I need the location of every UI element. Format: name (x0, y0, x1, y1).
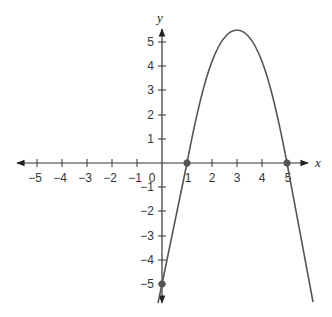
x-tick-labels: −5 −4 −3 −2 −1 1 2 3 4 5 (28, 171, 292, 185)
y-tick-label: 3 (147, 83, 154, 97)
y-tick-label: 4 (147, 59, 154, 73)
y-tick-label: 1 (147, 132, 154, 146)
point-x-intercept-5 (284, 160, 291, 167)
y-tick-label: −4 (140, 253, 154, 267)
y-tick-label: 5 (147, 35, 154, 49)
point-x-intercept-1 (184, 160, 191, 167)
x-tick-label: 3 (234, 171, 241, 185)
y-axis-label: y (155, 10, 163, 25)
x-tick-label: −3 (78, 171, 92, 185)
y-tick-label: −5 (140, 277, 154, 291)
y-tick-label: −1 (140, 180, 154, 194)
parabola-curve (158, 30, 313, 303)
y-tick-label: 2 (147, 108, 154, 122)
x-tick-label: −4 (53, 171, 67, 185)
y-tick-label: −3 (140, 229, 154, 243)
x-tick-label: −5 (28, 171, 42, 185)
y-tick-label: −2 (140, 204, 154, 218)
x-tick-label: −2 (103, 171, 117, 185)
point-y-intercept (159, 281, 166, 288)
x-tick-label: 2 (209, 171, 216, 185)
x-axis-label: x (314, 155, 321, 170)
parabola-chart: −5 −4 −3 −2 −1 1 2 3 4 5 0 5 4 3 2 1 −1 … (0, 0, 332, 317)
x-tick-label: 4 (259, 171, 266, 185)
